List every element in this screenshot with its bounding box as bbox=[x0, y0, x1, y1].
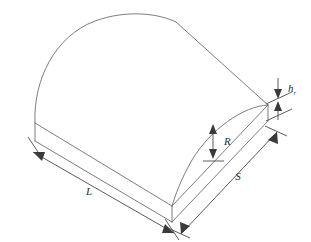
left-end-arc bbox=[35, 14, 176, 123]
shell-slab-diagram: L S R bbox=[0, 0, 311, 242]
right-front-bottom-edge bbox=[172, 121, 268, 222]
slab-geometry bbox=[35, 14, 268, 222]
length-arrow-left bbox=[33, 152, 45, 161]
rise-label: R bbox=[223, 135, 231, 147]
thickness-arrow-up bbox=[274, 101, 282, 111]
thickness-label-subscript: r bbox=[294, 89, 297, 96]
length-label: L bbox=[85, 185, 92, 197]
span-arrow-bottom bbox=[180, 222, 190, 234]
rise-arrow-up bbox=[209, 124, 217, 134]
top-ridge-line bbox=[176, 22, 268, 105]
span-dimension-line bbox=[181, 132, 277, 234]
dimension-length: L bbox=[28, 137, 179, 240]
rise-arrow-down bbox=[209, 149, 217, 159]
right-front-top-edge bbox=[172, 105, 268, 206]
front-left-bottom-edge bbox=[35, 141, 172, 222]
dimension-thickness: hr bbox=[266, 78, 297, 121]
thickness-label: hr bbox=[288, 82, 297, 96]
figure-container: L S R bbox=[0, 0, 311, 242]
span-arrow-top bbox=[268, 132, 278, 144]
length-arrow-right bbox=[162, 224, 174, 233]
span-label: S bbox=[235, 170, 241, 182]
